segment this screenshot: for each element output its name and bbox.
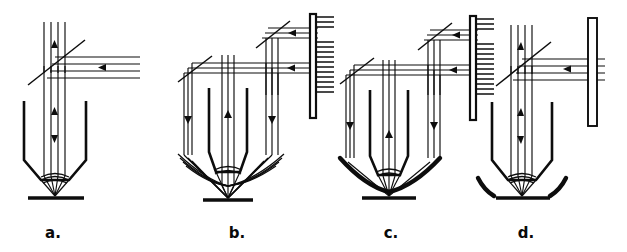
panel-c-right-outer-rays <box>428 65 440 158</box>
panel-c-grating-bar <box>470 16 476 120</box>
panel-a-lower-vertical-rays <box>44 66 65 176</box>
panel-d-window-bar <box>588 18 597 126</box>
panel-b-grating <box>310 14 334 118</box>
panel-c-left-down-arrow <box>346 122 354 130</box>
panel-c-upper-left-arrow <box>452 32 460 39</box>
panel-c-right-down-arrow <box>430 122 438 130</box>
panel-c-grating-teeth <box>476 19 494 94</box>
panel-b-upper-left-arrow <box>288 30 296 37</box>
panel-b-left-down-arrow <box>184 116 192 124</box>
panel-a-left-arrow <box>98 64 106 71</box>
panel-c-upper-beamsplitter <box>418 23 452 50</box>
panel-d-lower-vertical-rays <box>511 66 532 176</box>
panel-c-grating <box>470 16 494 120</box>
panel-d-lens-arcs <box>508 174 536 184</box>
panel-a-horizontal-rays <box>47 57 140 78</box>
panel-a-lens-arcs <box>41 174 69 184</box>
panel-c-center-rays <box>383 60 395 176</box>
panel-b-grating-teeth <box>316 17 334 92</box>
optical-diagram-svg: a. <box>0 0 627 252</box>
panel-a-up-arrow-mid <box>51 107 58 115</box>
panel-b-lower-beamsplitter <box>178 56 212 82</box>
panel-a-label: a. <box>45 224 61 242</box>
panel-c: c. <box>340 16 494 242</box>
panel-b-lower-left-arrow <box>287 65 295 72</box>
panel-d-label: d. <box>518 224 534 242</box>
panel-c-label: c. <box>384 224 399 242</box>
panel-d-beamsplitter <box>496 42 551 86</box>
panel-c-lower-left-arrow <box>449 67 457 74</box>
figure-root: a. <box>0 0 627 252</box>
panel-d: d. <box>478 18 605 242</box>
panel-b-right-outer-rays <box>266 63 278 155</box>
panel-b-upper-beamsplitter <box>256 21 290 48</box>
panel-b-grating-bar <box>310 14 316 118</box>
panel-c-center-up-arrow <box>385 130 393 138</box>
panel-b-right-down-arrow <box>268 116 276 124</box>
panel-b: b. <box>178 14 334 242</box>
panel-a-down-arrow <box>51 135 58 143</box>
panel-a-up-arrow-top <box>51 40 58 48</box>
panel-c-lower-beamsplitter <box>340 58 374 84</box>
panel-b-label: b. <box>229 224 245 242</box>
panel-b-center-up-arrow <box>224 110 232 118</box>
panel-a: a. <box>24 22 140 242</box>
